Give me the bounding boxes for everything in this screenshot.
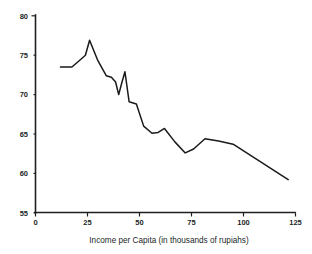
x-tick-label-0: 0 [33, 218, 37, 227]
x-tick-label-75: 75 [187, 218, 195, 227]
y-tick-label-80: 80 [20, 12, 28, 21]
chart-figure: 80 75 70 65 60 55 0 25 50 75 100 125 [0, 0, 312, 254]
x-tick-label-100: 100 [237, 218, 250, 227]
y-tick-labels: 80 75 70 65 60 55 [20, 12, 28, 218]
x-tick-label-25: 25 [83, 218, 91, 227]
x-axis-title: Income per Capita (in thousands of rupia… [89, 236, 249, 245]
x-tick-label-50: 50 [135, 218, 143, 227]
y-tick-label-70: 70 [20, 90, 28, 99]
y-tick-label-75: 75 [20, 51, 28, 60]
line-chart: 80 75 70 65 60 55 0 25 50 75 100 125 [0, 0, 312, 254]
data-series-line [60, 40, 288, 179]
y-tick-label-55: 55 [20, 209, 28, 218]
x-tick-labels: 0 25 50 75 100 125 [33, 218, 301, 227]
y-tick-label-60: 60 [20, 169, 28, 178]
y-tick-label-65: 65 [20, 130, 28, 139]
x-tick-label-125: 125 [289, 218, 302, 227]
